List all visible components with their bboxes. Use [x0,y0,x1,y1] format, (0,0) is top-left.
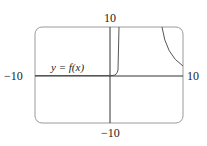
curve-branch-right [162,27,183,66]
y-max-label: 10 [104,12,116,24]
x-max-label: 10 [187,70,199,82]
x-min-label: −10 [4,70,23,82]
y-min-label: −10 [101,127,120,139]
function-label: y = f(x) [51,62,84,73]
